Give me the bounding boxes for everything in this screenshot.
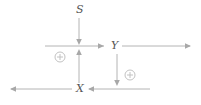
node-label-s: S <box>75 4 85 15</box>
arrowhead-s-down-icon <box>76 39 82 45</box>
diagram-canvas: S Y X <box>0 0 201 105</box>
arrowhead-into-x-icon <box>88 86 94 92</box>
arrowhead-bottom-left-icon <box>10 86 16 92</box>
arrowhead-into-y-icon <box>98 43 104 49</box>
arrowhead-middle-right-icon <box>185 43 191 49</box>
arrowhead-x-up-icon <box>76 49 82 55</box>
arrowhead-y-down-icon <box>114 80 120 86</box>
diagram-svg <box>0 0 201 105</box>
node-label-x: X <box>75 83 85 94</box>
junction-sum-left <box>55 52 65 62</box>
node-label-y: Y <box>110 40 119 51</box>
junction-sum-right <box>125 70 135 80</box>
